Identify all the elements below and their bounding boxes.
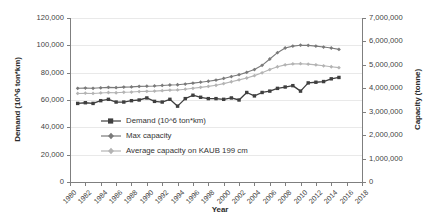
legend-item-max-capacity: Max capacity: [100, 128, 248, 143]
series-marker: [153, 89, 157, 93]
series-marker: [76, 86, 80, 90]
series-marker: [207, 97, 210, 100]
y-axis-right-tick: [363, 65, 366, 66]
series-marker: [291, 44, 295, 48]
x-axis-tick: [316, 183, 317, 186]
y-axis-left-tick-label: 40,000: [20, 122, 64, 131]
y-axis-left-tick: [67, 18, 70, 19]
chart-container: Demand (10^6 ton*km) Capacity (tonne) Ye…: [0, 0, 440, 224]
x-axis-tick: [301, 183, 302, 186]
y-axis-left-tick: [67, 45, 70, 46]
series-marker: [176, 83, 180, 87]
series-marker: [137, 98, 140, 101]
series-marker: [199, 96, 202, 99]
series-marker: [314, 81, 317, 84]
y-axis-right-tick-label: 2,000,000: [369, 130, 429, 139]
series-marker: [260, 71, 264, 75]
chart-legend: Demand (10^6 ton*km) Max capacity Averag…: [100, 113, 248, 158]
legend-item-average-capacity: Average capacity on KAUB 199 cm: [100, 143, 248, 158]
series-marker: [76, 92, 80, 96]
legend-label-average-capacity: Average capacity on KAUB 199 cm: [126, 146, 248, 155]
series-marker: [176, 104, 179, 107]
series-marker: [84, 101, 87, 104]
series-marker: [222, 82, 226, 86]
series-marker: [153, 100, 156, 103]
series-marker: [199, 85, 203, 89]
legend-label-demand: Demand (10^6 ton*km): [126, 116, 206, 125]
series-marker: [176, 88, 180, 92]
y-axis-right-tick: [363, 88, 366, 89]
series-marker: [322, 45, 326, 49]
series-marker: [130, 99, 133, 102]
series-marker: [168, 98, 171, 101]
series-marker: [222, 98, 225, 101]
series-marker: [99, 91, 103, 95]
series-marker: [107, 98, 110, 101]
series-marker: [160, 84, 164, 88]
series-marker: [322, 80, 325, 83]
series-marker: [160, 89, 164, 93]
series-marker: [206, 85, 210, 89]
x-axis-tick: [254, 183, 255, 186]
x-axis-tick: [331, 183, 332, 186]
series-marker: [229, 75, 233, 79]
series-marker: [145, 96, 148, 99]
series-marker: [122, 85, 126, 89]
series-marker: [122, 100, 125, 103]
y-axis-right-tick-label: 7,000,000: [369, 13, 429, 22]
x-axis-tick: [270, 183, 271, 186]
series-marker: [253, 74, 257, 78]
y-axis-right-tick-label: 5,000,000: [369, 60, 429, 69]
y-axis-right-tick-label: 1,000,000: [369, 154, 429, 163]
series-marker: [130, 85, 134, 89]
series-marker: [99, 86, 103, 90]
legend-label-max-capacity: Max capacity: [126, 131, 172, 140]
series-marker: [314, 44, 318, 48]
y-axis-left-tick: [67, 73, 70, 74]
y-axis-left-tick-label: 100,000: [20, 40, 64, 49]
series-marker: [107, 85, 111, 89]
series-marker: [168, 88, 172, 92]
series-marker: [306, 44, 310, 48]
x-axis-tick: [224, 183, 225, 186]
series-marker: [237, 98, 240, 101]
series-marker: [307, 81, 310, 84]
series-marker: [229, 80, 233, 84]
series-marker: [83, 86, 87, 90]
y-axis-right-tick: [363, 112, 366, 113]
series-marker: [253, 94, 256, 97]
series-marker: [237, 78, 241, 82]
series-marker: [329, 65, 333, 69]
x-axis-tick: [85, 183, 86, 186]
y-axis-left-tick-label: 0: [20, 177, 64, 186]
series-line: [78, 64, 339, 94]
y-axis-right-tick: [363, 41, 366, 42]
series-marker: [306, 62, 310, 66]
y-axis-left-tick: [67, 155, 70, 156]
series-marker: [337, 76, 340, 79]
y-axis-left-tick-label: 20,000: [20, 150, 64, 159]
series-marker: [245, 76, 249, 80]
series-marker: [206, 79, 210, 83]
series-marker: [268, 89, 271, 92]
series-marker: [83, 91, 87, 95]
legend-item-demand: Demand (10^6 ton*km): [100, 113, 248, 128]
y-axis-right-tick-label: 3,000,000: [369, 107, 429, 116]
series-marker: [330, 77, 333, 80]
series-marker: [237, 73, 241, 77]
series-marker: [230, 96, 233, 99]
series-marker: [130, 90, 134, 94]
series-marker: [199, 80, 203, 84]
series-marker: [114, 91, 118, 95]
x-axis-tick: [116, 183, 117, 186]
y-axis-right-tick-label: 0: [369, 177, 429, 186]
y-axis-right-tick: [363, 135, 366, 136]
series-marker: [114, 100, 117, 103]
x-axis-tick: [193, 183, 194, 186]
series-marker: [153, 84, 157, 88]
series-marker: [222, 77, 226, 81]
x-axis-tick: [162, 183, 163, 186]
series-marker: [260, 91, 263, 94]
series-marker: [183, 87, 187, 91]
series-marker: [161, 100, 164, 103]
